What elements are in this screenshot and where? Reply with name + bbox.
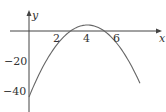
y-axis-arrow-icon	[27, 10, 32, 16]
x-tick-2: 2	[53, 33, 60, 44]
x-tick-6: 6	[113, 33, 120, 44]
y-axis-label: y	[32, 10, 38, 21]
y-tick-minus-20: −20	[4, 56, 27, 67]
x-axis-label: x	[159, 33, 165, 44]
x-tick-4: 4	[83, 33, 90, 44]
y-tick-minus-40: −40	[3, 86, 26, 97]
